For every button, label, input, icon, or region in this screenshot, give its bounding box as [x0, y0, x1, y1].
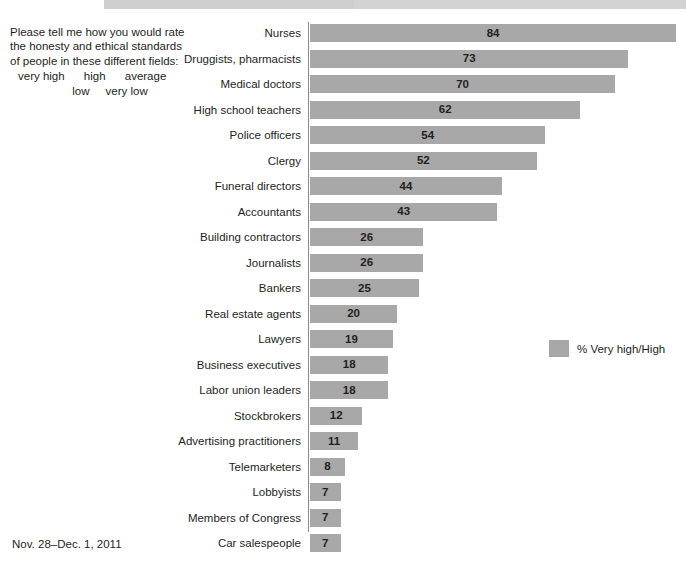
- bar-row: Funeral directors44: [0, 176, 686, 202]
- bar-value-label: 19: [310, 332, 393, 346]
- bar-row: Medical doctors70: [0, 74, 686, 100]
- bar-value-label: 7: [310, 510, 341, 524]
- bar-row: Clergy52: [0, 151, 686, 177]
- bar-row: Real estate agents20: [0, 304, 686, 330]
- bar-row: Journalists26: [0, 253, 686, 279]
- bar-value-label: 84: [310, 26, 676, 40]
- bar-value-label: 54: [310, 128, 545, 142]
- category-label: Bankers: [259, 281, 301, 295]
- bar-value-label: 11: [310, 434, 358, 448]
- bar-value-label: 43: [310, 204, 497, 218]
- bar-row: Business executives18: [0, 355, 686, 381]
- category-label: High school teachers: [194, 103, 301, 117]
- bar-value-label: 52: [310, 153, 537, 167]
- bar-value-label: 7: [310, 536, 341, 550]
- category-label: Medical doctors: [220, 77, 301, 91]
- category-label: Clergy: [268, 154, 301, 168]
- bar-row: Stockbrokers12: [0, 406, 686, 432]
- bar-value-label: 7: [310, 485, 341, 499]
- bar-row: Advertising practitioners11: [0, 431, 686, 457]
- category-label: Lobbyists: [252, 485, 301, 499]
- bar-value-label: 26: [310, 255, 423, 269]
- chart-legend: % Very high/High: [549, 340, 665, 357]
- bar-value-label: 8: [310, 459, 345, 473]
- bar-row: Police officers54: [0, 125, 686, 151]
- bar-value-label: 20: [310, 306, 397, 320]
- bar-value-label: 12: [310, 408, 362, 422]
- category-label: Members of Congress: [188, 511, 301, 525]
- bar-value-label: 25: [310, 281, 419, 295]
- bar-value-label: 70: [310, 77, 615, 91]
- bar-value-label: 18: [310, 383, 388, 397]
- bar-row: Labor union leaders18: [0, 380, 686, 406]
- category-label: Building contractors: [200, 230, 301, 244]
- survey-date-note: Nov. 28–Dec. 1, 2011: [12, 538, 122, 550]
- bar-value-label: 62: [310, 102, 580, 116]
- category-label: Labor union leaders: [199, 383, 301, 397]
- category-label: Stockbrokers: [234, 409, 301, 423]
- category-label: Accountants: [238, 205, 301, 219]
- legend-swatch-very-high-high: [549, 340, 569, 357]
- category-label: Real estate agents: [205, 307, 301, 321]
- bar-row: Nurses84: [0, 23, 686, 49]
- category-label: Lawyers: [258, 332, 301, 346]
- category-label: Funeral directors: [215, 179, 301, 193]
- category-label: Car salespeople: [218, 536, 301, 550]
- bar-row: Members of Congress7: [0, 508, 686, 534]
- bar-value-label: 18: [310, 357, 388, 371]
- bar-row: Lobbyists7: [0, 482, 686, 508]
- category-label: Advertising practitioners: [178, 434, 301, 448]
- category-label: Business executives: [197, 358, 301, 372]
- bar-row: High school teachers62: [0, 100, 686, 126]
- bar-value-label: 26: [310, 230, 423, 244]
- bar-row: Building contractors26: [0, 227, 686, 253]
- category-label: Telemarketers: [229, 460, 301, 474]
- bar-row: Bankers25: [0, 278, 686, 304]
- bar-row: Accountants43: [0, 202, 686, 228]
- category-label: Police officers: [230, 128, 301, 142]
- legend-label-very-high-high: % Very high/High: [577, 343, 665, 355]
- bar-value-label: 73: [310, 51, 628, 65]
- category-label: Druggists, pharmacists: [184, 52, 301, 66]
- bar-row: Druggists, pharmacists73: [0, 49, 686, 75]
- bar-value-label: 44: [310, 179, 502, 193]
- bar-row: Telemarketers8: [0, 457, 686, 483]
- category-label: Nurses: [265, 26, 301, 40]
- bar-chart: Nurses84Druggists, pharmacists73Medical …: [0, 0, 686, 575]
- category-label: Journalists: [246, 256, 301, 270]
